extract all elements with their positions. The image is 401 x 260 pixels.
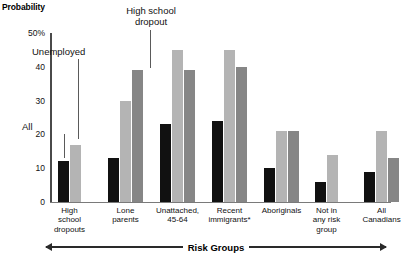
left-arrow-icon: [46, 246, 183, 248]
bar[interactable]: [288, 131, 299, 202]
bar[interactable]: [70, 145, 81, 202]
bar[interactable]: [108, 158, 119, 202]
y-tick-40: 40: [36, 62, 45, 72]
annotation-all: All: [22, 122, 33, 133]
bar[interactable]: [276, 131, 287, 202]
bar-group: [264, 33, 299, 202]
y-tick-10: 10: [36, 163, 45, 173]
bar[interactable]: [236, 67, 247, 202]
y-tick-30: 30: [36, 96, 45, 106]
bar[interactable]: [172, 50, 183, 202]
bar[interactable]: [184, 70, 195, 202]
bar[interactable]: [120, 101, 131, 202]
bar-group: [160, 33, 195, 202]
bar[interactable]: [224, 50, 235, 202]
bar[interactable]: [160, 124, 171, 202]
annotation-unemployed-leader: [78, 59, 79, 139]
bar[interactable]: [364, 172, 375, 202]
bar[interactable]: [264, 168, 275, 202]
right-arrow-icon: [249, 246, 386, 248]
x-axis-title-bar: Risk Groups: [46, 240, 386, 254]
bar[interactable]: [132, 70, 143, 202]
bar[interactable]: [388, 158, 399, 202]
bar[interactable]: [327, 155, 338, 202]
bar[interactable]: [315, 182, 326, 202]
x-label: All Canadians: [350, 206, 401, 225]
bar[interactable]: [376, 131, 387, 202]
annotation-all-leader: [64, 134, 65, 158]
x-axis-baseline: [50, 202, 391, 203]
x-axis-title: Risk Groups: [183, 242, 250, 253]
y-tick-50: 50%: [28, 28, 45, 38]
x-label: High school dropouts: [38, 206, 102, 234]
bar-chart: Probability 01020304050% High school dro…: [0, 0, 401, 260]
bar[interactable]: [58, 161, 69, 202]
bar-group: [108, 33, 143, 202]
y-axis-title: Probability: [2, 2, 45, 12]
bar-group: [364, 33, 399, 202]
annotation-high-school-dropout: High school dropout: [110, 6, 192, 27]
bar[interactable]: [212, 121, 223, 202]
annotation-high-school-dropout-leader: [150, 30, 151, 68]
bar-group: [212, 33, 247, 202]
bar-group: [315, 33, 338, 202]
annotation-unemployed: Unemployed: [32, 47, 85, 58]
y-tick-20: 20: [36, 129, 45, 139]
plot-area: 01020304050%: [50, 33, 390, 202]
